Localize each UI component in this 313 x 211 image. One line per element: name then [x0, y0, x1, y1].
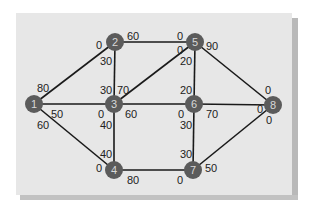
- node-5-label: 5: [192, 36, 198, 48]
- edge-2-3: [114, 42, 115, 104]
- cap-label: 0: [96, 39, 102, 51]
- node-2-label: 2: [112, 36, 118, 48]
- cap-label: 0: [177, 30, 183, 42]
- cap-label: 0: [96, 162, 102, 174]
- node-4: 4: [105, 161, 123, 179]
- cap-label: 40: [100, 148, 112, 160]
- edge-5-6: [194, 42, 195, 104]
- node-4-label: 4: [111, 164, 117, 176]
- cap-label: 60: [125, 108, 137, 120]
- edges: [34, 42, 273, 170]
- cap-label: 80: [127, 174, 139, 186]
- edge-6-7: [193, 104, 194, 170]
- node-8: 8: [264, 96, 282, 114]
- cap-label: 60: [127, 30, 139, 42]
- node-3: 3: [105, 95, 123, 113]
- cap-label: 40: [100, 119, 112, 131]
- node-1-label: 1: [31, 98, 37, 110]
- cap-label: 0: [177, 174, 183, 186]
- cap-label: 90: [206, 40, 218, 52]
- node-7-label: 7: [190, 164, 196, 176]
- cap-label: 30: [100, 55, 112, 67]
- node-8-label: 8: [270, 99, 276, 111]
- cap-label: 70: [117, 84, 129, 96]
- cap-label: 0: [266, 114, 272, 126]
- cap-label: 0: [257, 103, 263, 115]
- node-1: 1: [25, 95, 43, 113]
- cap-label: 80: [37, 82, 49, 94]
- cap-label: 50: [205, 162, 217, 174]
- cap-label: 30: [100, 84, 112, 96]
- cap-label: 30: [180, 119, 192, 131]
- cap-label: 30: [180, 148, 192, 160]
- node-6: 6: [185, 95, 203, 113]
- cap-label: 60: [37, 119, 49, 131]
- nodes: 1 2 3 4 5 6 7 8: [25, 33, 282, 179]
- cap-label: 20: [180, 84, 192, 96]
- cap-label: 20: [180, 55, 192, 67]
- node-3-label: 3: [111, 98, 117, 110]
- node-7: 7: [184, 161, 202, 179]
- cap-label: 0: [265, 84, 271, 96]
- capacity-labels: 80 0 50 0 60 0 30 30 60 0 70 0 60 0 40 4…: [37, 30, 272, 186]
- node-6-label: 6: [191, 98, 197, 110]
- node-5: 5: [186, 33, 204, 51]
- cap-label: 70: [206, 108, 218, 120]
- network-graph: 80 0 50 0 60 0 30 30 60 0 70 0 60 0 40 4…: [0, 0, 313, 211]
- cap-label: 50: [51, 108, 63, 120]
- node-2: 2: [106, 33, 124, 51]
